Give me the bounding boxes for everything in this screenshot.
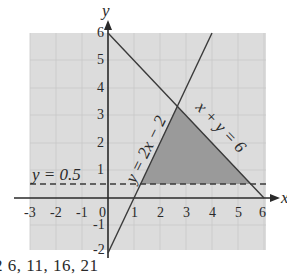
label-y-0.5: y = 0.5 bbox=[30, 165, 81, 184]
svg-text:4: 4 bbox=[209, 205, 216, 220]
svg-text:1: 1 bbox=[131, 205, 138, 220]
x-axis-label: x bbox=[280, 188, 287, 207]
svg-text:4: 4 bbox=[97, 80, 104, 95]
y-axis-arrow-icon bbox=[104, 20, 112, 30]
svg-text:3: 3 bbox=[183, 205, 190, 220]
svg-text:-2: -2 bbox=[50, 205, 62, 220]
y-axis-label: y bbox=[100, 1, 110, 20]
svg-text:2: 2 bbox=[97, 135, 104, 150]
svg-text:5: 5 bbox=[235, 205, 242, 220]
svg-text:6: 6 bbox=[259, 205, 266, 220]
svg-text:6: 6 bbox=[97, 25, 104, 40]
x-axis-arrow-icon bbox=[270, 194, 280, 202]
graph: y x -3 -2 -1 0 1 2 3 4 5 6 -2 -1 1 2 3 4… bbox=[0, 0, 287, 274]
svg-text:-1: -1 bbox=[76, 205, 88, 220]
svg-text:1: 1 bbox=[97, 162, 104, 177]
svg-text:-1: -1 bbox=[93, 217, 105, 232]
svg-text:2: 2 bbox=[157, 205, 164, 220]
svg-text:-2: -2 bbox=[93, 242, 105, 257]
svg-text:-3: -3 bbox=[24, 205, 36, 220]
svg-text:3: 3 bbox=[97, 107, 104, 122]
svg-text:5: 5 bbox=[97, 52, 104, 67]
footer-text: 2 6, 11, 16, 21 bbox=[0, 256, 99, 274]
